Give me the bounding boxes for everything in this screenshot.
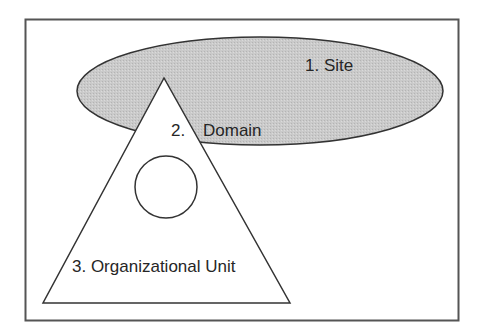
diagram-canvas: 1. Site 2. Domain 3. Organizational Unit xyxy=(0,0,478,333)
site-label: 1. Site xyxy=(305,56,353,75)
ou-label: 3. Organizational Unit xyxy=(72,257,236,276)
domain-number-label: 2. xyxy=(171,121,185,140)
ou-circle xyxy=(135,156,197,218)
domain-name-label: Domain xyxy=(203,121,262,140)
